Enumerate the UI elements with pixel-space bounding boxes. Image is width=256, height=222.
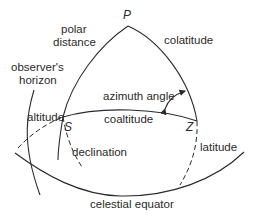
latitude-label: latitude <box>200 141 237 153</box>
colatitude-label: colatitude <box>164 34 213 46</box>
polar-distance-label-2: distance <box>53 36 96 48</box>
polar-distance-label-1: polar <box>61 23 87 35</box>
zenith-label: Z <box>185 120 194 134</box>
pole-label: P <box>123 8 131 22</box>
declination-label: declination <box>72 146 127 158</box>
observers-horizon-label-1: observer's <box>11 61 64 73</box>
azimuth-angle-label: azimuth angle <box>103 90 175 102</box>
altitude-label: altitude <box>27 111 64 123</box>
coaltitude-label: coaltitude <box>104 113 153 125</box>
observers-horizon-label-2: horizon <box>19 74 57 86</box>
celestial-equator-label: celestial equator <box>90 198 174 210</box>
celestial-equator-line <box>15 152 244 196</box>
celestial-triangle-diagram: P S Z polar distance colatitude observer… <box>0 0 256 222</box>
star-label: S <box>64 120 72 134</box>
observers-horizon-line <box>27 90 40 195</box>
